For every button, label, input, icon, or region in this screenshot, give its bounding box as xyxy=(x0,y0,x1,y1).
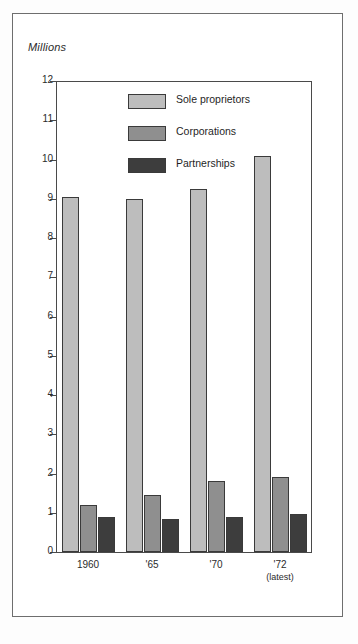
legend-item-label: Partnerships xyxy=(176,157,235,169)
plot-border-top xyxy=(56,81,312,82)
x-axis-label: '72(latest) xyxy=(248,559,312,583)
plot-border-right xyxy=(311,81,312,553)
y-axis-tick-label: 11 xyxy=(43,113,53,124)
x-axis-label: '70 xyxy=(184,559,248,571)
bar xyxy=(162,519,179,552)
y-axis-tick-label: 1 xyxy=(47,506,53,517)
x-axis-label-main: '70 xyxy=(209,559,222,570)
y-axis-tick-label: 8 xyxy=(47,231,53,242)
bar xyxy=(98,517,115,552)
y-axis-tick-label: 6 xyxy=(47,310,53,321)
x-axis-label-main: 1960 xyxy=(77,559,99,570)
bar xyxy=(126,199,143,552)
x-axis-line xyxy=(56,552,312,553)
plot-area: 0123456789101112 1960'65'70'72(latest) xyxy=(56,81,312,553)
y-axis-tick-label: 9 xyxy=(47,192,53,203)
y-axis-tick-label: 12 xyxy=(42,74,53,85)
bar xyxy=(208,481,225,552)
x-axis-label-main: '72 xyxy=(273,559,286,570)
legend-swatch-corporations xyxy=(128,126,166,141)
legend-item-label: Corporations xyxy=(176,125,236,137)
bar xyxy=(144,495,161,552)
legend-item-label: Sole proprietors xyxy=(176,93,250,105)
x-axis-label: '65 xyxy=(120,559,184,571)
bar xyxy=(62,197,79,552)
bar xyxy=(290,514,307,552)
x-axis-label-sub: (latest) xyxy=(248,571,312,583)
y-axis-tick-label: 5 xyxy=(47,349,53,360)
bar xyxy=(226,517,243,552)
bar xyxy=(80,505,97,552)
x-axis-label: 1960 xyxy=(56,559,120,571)
figure-canvas: Millions 0123456789101112 1960'65'70'72(… xyxy=(0,0,358,644)
legend-swatch-sole-proprietors xyxy=(128,94,166,109)
bar xyxy=(254,156,271,552)
y-axis-units-label: Millions xyxy=(28,41,66,53)
y-axis-tick-label: 2 xyxy=(47,467,53,478)
y-axis-tick-label: 4 xyxy=(47,388,53,399)
y-axis-tick-label: 3 xyxy=(47,427,53,438)
y-axis-tick-label: 7 xyxy=(47,270,53,281)
y-axis-line xyxy=(56,81,57,553)
bar xyxy=(272,477,289,552)
x-axis-label-main: '65 xyxy=(145,559,158,570)
legend-swatch-partnerships xyxy=(128,158,166,173)
y-axis-tick-label: 10 xyxy=(42,153,53,164)
y-axis-tick-label: 0 xyxy=(47,545,53,556)
bar xyxy=(190,189,207,552)
